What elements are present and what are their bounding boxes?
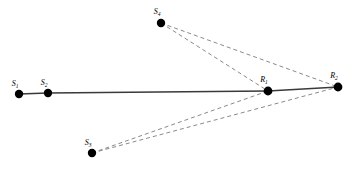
node-s3 [88, 149, 96, 157]
edges-layer [19, 23, 338, 153]
edge-s1-s2 [19, 93, 48, 94]
edge-s3-r1 [92, 91, 268, 153]
edge-s4-r1 [161, 23, 268, 91]
diagram-canvas: S1S2S3S4R1R2 [0, 0, 356, 169]
nodes-layer [15, 19, 343, 157]
node-s2 [44, 89, 52, 97]
node-r2 [334, 83, 343, 92]
node-s4 [157, 19, 165, 27]
edge-s2-r1 [48, 91, 268, 93]
node-label-r2: R2 [329, 71, 338, 81]
edge-s3-r2 [92, 87, 338, 153]
edge-s4-r2 [161, 23, 338, 87]
node-label-s2: S2 [41, 78, 48, 88]
node-r1 [264, 87, 273, 96]
edge-r1-r2 [268, 87, 338, 91]
node-s1 [15, 90, 23, 98]
node-label-s1: S1 [12, 79, 19, 89]
node-label-r1: R1 [259, 75, 268, 85]
node-geometry-diagram: S1S2S3S4R1R2 [0, 0, 356, 169]
node-label-s4: S4 [154, 7, 161, 17]
node-label-s3: S3 [85, 138, 92, 148]
